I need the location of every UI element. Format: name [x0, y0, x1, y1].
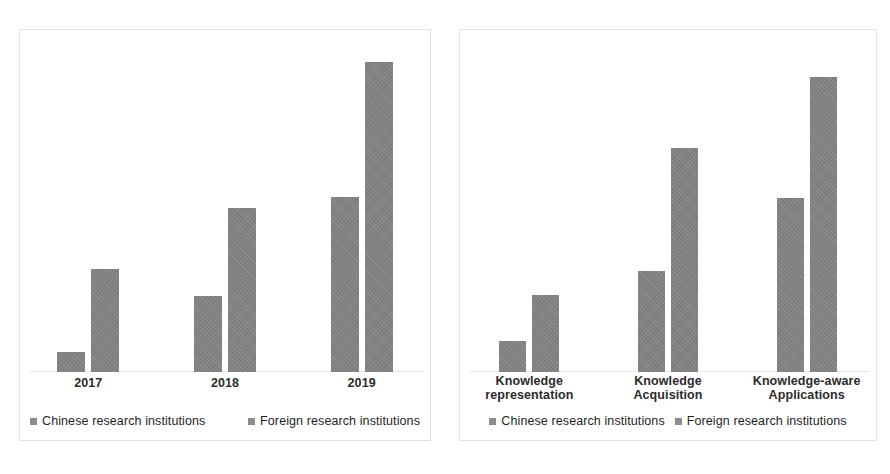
legend-item-foreign[interactable]: Foreign research institutions [248, 414, 420, 428]
bar-groups-right [460, 32, 876, 372]
bar-chinese-knowledge-representation[interactable] [499, 341, 526, 372]
legend-right: Chinese research institutions Foreign re… [460, 414, 876, 428]
x-tick-line1: Knowledge [604, 374, 732, 388]
legend-left: Chinese research institutions Foreign re… [20, 414, 430, 428]
bar-chinese-knowledge-acquisition[interactable] [638, 271, 665, 372]
legend-label-foreign: Foreign research institutions [260, 414, 420, 428]
x-tick-label-2019: 2019 [302, 376, 422, 390]
x-tick-line2: Acquisition [604, 388, 732, 402]
plot-area-left [20, 32, 430, 372]
x-tick-line1: 2017 [28, 376, 148, 390]
legend-swatch-icon [489, 418, 496, 425]
x-tick-line1: 2018 [165, 376, 285, 390]
bar-foreign-2017[interactable] [91, 269, 119, 372]
bar-group-2018 [194, 32, 256, 372]
bar-foreign-knowledge-representation[interactable] [532, 295, 559, 372]
legend-swatch-icon [248, 418, 255, 425]
x-tick-line2: Applications [743, 388, 871, 402]
x-axis-labels-left: 2017 2018 2019 [20, 376, 430, 390]
x-tick-label-knowledge-acquisition: Knowledge Acquisition [604, 374, 732, 402]
bar-foreign-knowledge-acquisition[interactable] [671, 148, 698, 372]
legend-swatch-icon [30, 418, 37, 425]
legend-swatch-icon [675, 418, 682, 425]
x-tick-label-knowledge-aware-applications: Knowledge-aware Applications [743, 374, 871, 402]
bar-groups-left [20, 32, 430, 372]
x-tick-line1: 2019 [302, 376, 422, 390]
bar-group-2019 [331, 32, 393, 372]
legend-item-chinese[interactable]: Chinese research institutions [30, 414, 205, 428]
legend-label-chinese: Chinese research institutions [42, 414, 205, 428]
bar-chinese-2018[interactable] [194, 296, 222, 372]
plot-area-right [460, 32, 876, 372]
x-tick-line2: representation [465, 388, 593, 402]
bar-chinese-2017[interactable] [57, 352, 85, 372]
bar-chinese-2019[interactable] [331, 197, 359, 372]
x-tick-label-2018: 2018 [165, 376, 285, 390]
legend-item-foreign[interactable]: Foreign research institutions [675, 414, 847, 428]
bar-chinese-knowledge-aware-applications[interactable] [777, 198, 804, 372]
bar-group-knowledge-acquisition [638, 32, 698, 372]
bar-group-2017 [57, 32, 119, 372]
legend-label-foreign: Foreign research institutions [687, 414, 847, 428]
x-tick-line1: Knowledge [465, 374, 593, 388]
x-tick-label-knowledge-representation: Knowledge representation [465, 374, 593, 402]
bar-foreign-knowledge-aware-applications[interactable] [810, 77, 837, 372]
x-tick-line1: Knowledge-aware [743, 374, 871, 388]
legend-item-chinese[interactable]: Chinese research institutions [489, 414, 664, 428]
bar-foreign-2018[interactable] [228, 208, 256, 372]
chart-panel-right: Knowledge representation Knowledge Acqui… [459, 29, 877, 441]
bar-foreign-2019[interactable] [365, 62, 393, 372]
figure-page: 2017 2018 2019 Chinese research institut… [0, 0, 890, 474]
bar-group-knowledge-aware-applications [777, 32, 837, 372]
legend-label-chinese: Chinese research institutions [501, 414, 664, 428]
x-axis-labels-right: Knowledge representation Knowledge Acqui… [460, 374, 876, 402]
x-tick-label-2017: 2017 [28, 376, 148, 390]
chart-panel-left: 2017 2018 2019 Chinese research institut… [19, 29, 431, 441]
bar-group-knowledge-representation [499, 32, 559, 372]
